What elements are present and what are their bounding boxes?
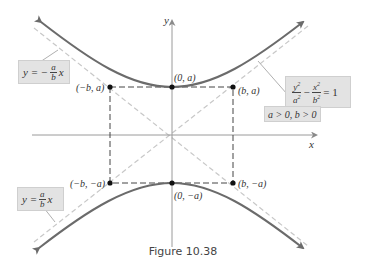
label-neg-b-a: (−b, a)	[76, 82, 105, 94]
fraction-denominator: b	[50, 73, 57, 82]
asymptote-neg-lhs: y = −	[23, 66, 48, 78]
point-b-a	[230, 84, 235, 89]
term-y-squared-over-a-squared: y2 a2	[292, 80, 302, 105]
point-zero-neg-a	[169, 180, 174, 185]
hyperbola-diagram: (−b, a) (0, a) (b, a) (−b, −a) (0, −a) (…	[0, 0, 366, 271]
fraction-numerator: a	[50, 63, 57, 73]
hyperbola-figure: (−b, a) (0, a) (b, a) (−b, −a) (0, −a) (…	[0, 0, 366, 271]
fraction-numerator: a	[39, 190, 46, 200]
label-neg-b-neg-a: (−b, −a)	[70, 178, 106, 190]
asymptote-neg-label: y = − a b x	[18, 60, 70, 84]
label-b-neg-a: (b, −a)	[238, 178, 267, 190]
fraction-denominator: b	[39, 200, 46, 209]
asymptote-positive-slope	[34, 26, 308, 242]
x-axis-label: x	[308, 138, 314, 150]
exponent: 2	[317, 81, 320, 87]
minus-sign: −	[304, 86, 310, 98]
label-zero-neg-a: (0, −a)	[174, 190, 203, 202]
condition-text: a > 0, b > 0	[268, 109, 317, 120]
asymptote-negative-slope	[34, 28, 308, 246]
point-b-neg-a	[230, 180, 235, 185]
point-zero-a	[169, 84, 174, 89]
asymptote-pos-rhs: x	[48, 193, 53, 205]
asymptote-neg-fraction: a b	[50, 63, 57, 82]
exponent: 2	[317, 94, 320, 100]
exponent: 2	[298, 94, 301, 100]
asymptote-pos-label: y = a b x	[17, 187, 64, 211]
point-neg-b-a	[107, 84, 112, 89]
asymptote-neg-rhs: x	[59, 66, 64, 78]
term-x-squared-over-b-squared: x2 b2	[312, 80, 322, 105]
y-axis-label: y	[163, 14, 169, 26]
asymptote-pos-lhs: y =	[22, 193, 37, 205]
equation-rhs: = 1	[323, 86, 337, 98]
exponent: 2	[297, 81, 300, 87]
figure-caption: Figure 10.38	[0, 245, 366, 258]
hyperbola-lower-branch	[39, 183, 303, 248]
label-zero-a: (0, a)	[174, 72, 196, 84]
asymptote-pos-fraction: a b	[39, 190, 46, 209]
equation-box: y2 a2 − x2 b2 = 1	[285, 76, 351, 108]
point-neg-b-neg-a	[107, 180, 112, 185]
leader-equation	[258, 61, 287, 94]
label-b-a: (b, a)	[238, 85, 260, 97]
condition-box: a > 0, b > 0	[264, 106, 321, 122]
